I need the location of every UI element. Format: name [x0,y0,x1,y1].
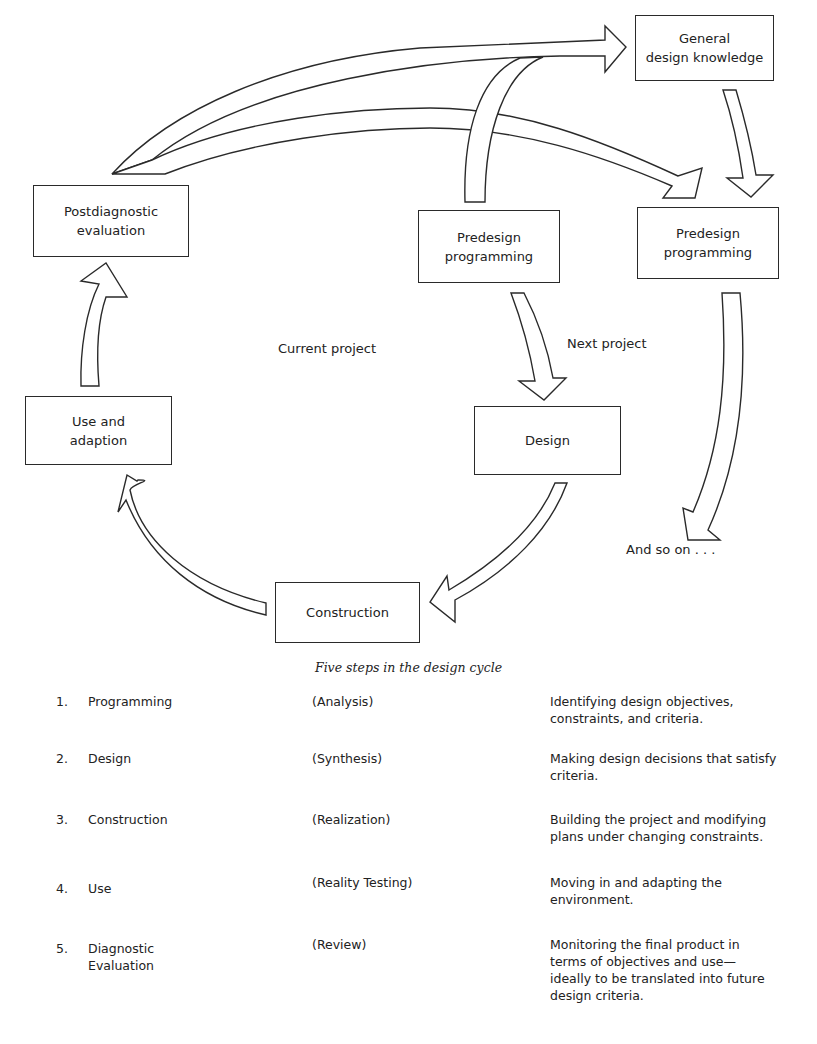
step-description: Identifying design objectives, constrain… [550,693,800,727]
node-postdiagnostic-evaluation: Postdiagnostic evaluation [33,185,189,257]
arrow-use-to-postdiag [81,263,127,386]
step-name: Programming [88,693,248,710]
step-number: 4. [56,880,74,897]
arrow-construction-to-use [118,475,266,615]
node-design-label: Design [525,431,570,450]
step-description: Making design decisions that satisfy cri… [550,750,800,784]
arrow-predesign-to-design [511,293,566,400]
design-cycle-diagram: General design knowledge Postdiagnostic … [0,0,817,650]
step-number: 5. [56,940,74,957]
step-name: Diagnostic Evaluation [88,940,178,974]
arrow-general-to-predesign-next [723,90,773,197]
arrow-design-to-construction [430,483,567,622]
step-description: Building the project and modifying plans… [550,811,800,845]
step-phase: (Realization) [312,811,512,828]
label-next-project: Next project [567,336,647,351]
node-use-label: Use and adaption [70,412,127,450]
step-name: Use [88,880,248,897]
node-general-design-knowledge: General design knowledge [635,15,774,81]
node-predesign-programming-current: Predesign programming [418,210,560,283]
step-phase: (Reality Testing) [312,874,512,891]
step-description: Moving in and adapting the environment. [550,874,800,908]
step-number: 3. [56,811,74,828]
label-and-so-on: And so on . . . [626,542,715,557]
node-predesign-programming-next: Predesign programming [637,207,779,279]
step-number: 2. [56,750,74,767]
node-postdiagnostic-label: Postdiagnostic evaluation [64,202,158,240]
step-description: Monitoring the final product in terms of… [550,936,775,1004]
step-phase: (Analysis) [312,693,512,710]
node-construction: Construction [275,582,420,643]
step-number: 1. [56,693,74,710]
step-name: Design [88,750,248,767]
node-construction-label: Construction [306,603,389,622]
node-predesign-next-label: Predesign programming [664,224,752,262]
node-predesign-current-label: Predesign programming [445,228,533,266]
node-design: Design [474,406,621,475]
arrow-predesign-next-to-continue [683,293,743,540]
node-use-and-adaption: Use and adaption [25,396,172,465]
label-current-project: Current project [278,341,376,356]
step-phase: (Synthesis) [312,750,512,767]
step-phase: (Review) [312,936,512,953]
node-general-label: General design knowledge [646,29,764,67]
figure-caption: Five steps in the design cycle [0,660,817,675]
step-name: Construction [88,811,248,828]
